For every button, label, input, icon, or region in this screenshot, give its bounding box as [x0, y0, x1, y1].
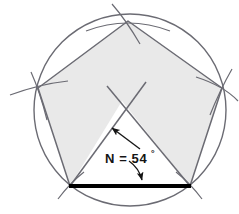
- angle-label: N = 54: [105, 151, 147, 166]
- construction-drawing-canvas: N = 54 °: [0, 0, 239, 214]
- geometry-figure: N = 54 °: [0, 0, 239, 214]
- degree-symbol: °: [151, 148, 155, 158]
